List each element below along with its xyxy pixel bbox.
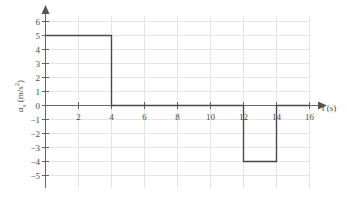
xtick-label-2: 2: [76, 113, 81, 122]
y-axis-title: ax (m/s2): [14, 80, 27, 112]
xtick-label-12: 12: [239, 113, 248, 122]
ytick-label-neg4: −4: [30, 157, 40, 166]
ytick-label-neg5: −5: [30, 171, 40, 180]
ytick-label-3: 3: [36, 59, 41, 68]
ytick-label-neg2: −2: [30, 129, 40, 138]
xtick-label-10: 10: [206, 113, 215, 122]
ytick-label-2: 2: [36, 73, 41, 82]
y-axis-title-units-open: (m/s: [15, 86, 25, 102]
ytick-label-6: 6: [36, 17, 41, 26]
y-axis-title-subscript: x: [20, 105, 27, 108]
xtick-label-4: 4: [109, 113, 114, 122]
ytick-label-0: 0: [36, 101, 41, 110]
ytick-label-neg1: −1: [30, 115, 40, 124]
y-axis-title-units-close: ): [15, 80, 25, 83]
xtick-label-8: 8: [175, 113, 180, 122]
ytick-label-1: 1: [36, 87, 41, 96]
ytick-label-5: 5: [36, 31, 41, 40]
acceleration-time-graph: 2 4 6 8 10 12 14 16 6 5 4 3 2 1 0 −1 −2 …: [0, 0, 347, 198]
plot-area: [0, 0, 347, 198]
x-axis-title-units: (s): [327, 103, 337, 113]
y-axis-title-exponent: 2: [13, 83, 20, 86]
y-axis: [42, 5, 50, 188]
xtick-label-14: 14: [272, 113, 281, 122]
xtick-label-16: 16: [305, 113, 314, 122]
x-axis-title: t (s): [322, 104, 336, 113]
ytick-label-4: 4: [36, 45, 41, 54]
y-axis-arrow-icon: [42, 5, 50, 14]
xtick-label-6: 6: [142, 113, 147, 122]
y-axis-title-variable: a: [15, 107, 25, 112]
ytick-label-neg3: −3: [30, 143, 40, 152]
